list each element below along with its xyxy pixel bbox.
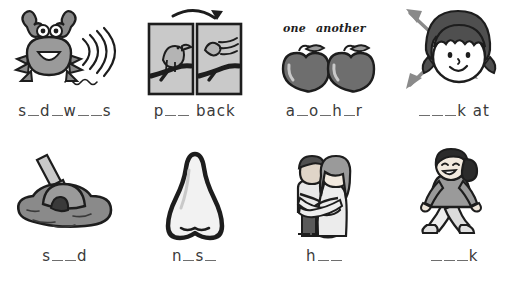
label-letters: d <box>77 247 88 265</box>
blank-line[interactable] <box>78 104 89 116</box>
worksheet-item-label: sd <box>42 249 87 264</box>
label-letters: p <box>154 102 165 120</box>
worksheet-item-label: ns <box>172 249 217 264</box>
worksheet-item-walk[interactable]: k <box>389 145 519 289</box>
blank-line[interactable] <box>52 104 63 116</box>
blank-line[interactable] <box>178 104 189 116</box>
worksheet-item-label: p back <box>154 104 236 119</box>
blank-line[interactable] <box>419 104 430 116</box>
label-letters: n <box>172 247 183 265</box>
label-letters: k <box>469 247 479 265</box>
worksheet-row-bottom: sd ns <box>0 145 519 289</box>
blank-line[interactable] <box>91 104 102 116</box>
label-letters: h <box>306 247 317 265</box>
worksheet-item-sand[interactable]: sd <box>0 145 130 289</box>
worksheet-item-label: k <box>430 249 479 264</box>
label-letters: k at <box>457 102 490 120</box>
label-letters: s <box>18 102 27 120</box>
label-letters: d <box>40 102 51 120</box>
worksheet-item-apples[interactable]: oneanother <box>260 0 390 144</box>
couple-hugging-icon <box>260 145 388 247</box>
blank-line[interactable] <box>444 249 455 261</box>
blank-line[interactable] <box>183 249 194 261</box>
nose-icon <box>131 145 259 247</box>
label-letters: s <box>42 247 51 265</box>
worksheet-item-crab[interactable]: sdws <box>0 0 130 144</box>
blank-line[interactable] <box>432 104 443 116</box>
blank-line[interactable] <box>431 249 442 261</box>
blank-line[interactable] <box>52 249 63 261</box>
apples-caption: oneanother <box>260 22 388 35</box>
worksheet-item-label: sdws <box>18 104 111 119</box>
worksheet-page: sdws <box>0 0 519 289</box>
blank-line[interactable] <box>445 104 456 116</box>
two-apples-icon: oneanother <box>260 0 388 102</box>
label-letters: s <box>195 247 204 265</box>
girl-face-with-double-arrow-icon <box>390 0 518 102</box>
blank-line[interactable] <box>165 104 176 116</box>
worksheet-item-nose[interactable]: ns <box>130 145 260 289</box>
blank-line[interactable] <box>28 104 39 116</box>
caption-word-one: one <box>283 22 306 35</box>
worksheet-item-label: k at <box>418 104 490 119</box>
blank-line[interactable] <box>457 249 468 261</box>
label-letters: s <box>103 102 112 120</box>
girl-walking-icon <box>390 145 518 247</box>
sand-pile-with-shovel-icon <box>1 145 129 247</box>
blank-line[interactable] <box>318 249 329 261</box>
worksheet-item-label: h <box>306 249 343 264</box>
worksheet-item-bird-back[interactable]: p back <box>130 0 260 144</box>
worksheet-row-top: sdws <box>0 0 519 144</box>
label-letters: back <box>190 102 235 120</box>
blank-line[interactable] <box>65 249 76 261</box>
crab-with-motion-lines-icon <box>1 0 129 102</box>
worksheet-item-look-at[interactable]: k at <box>389 0 519 144</box>
caption-word-two: another <box>316 22 366 35</box>
blank-line[interactable] <box>331 249 342 261</box>
blank-line[interactable] <box>205 249 216 261</box>
worksheet-item-hug[interactable]: h <box>260 145 390 289</box>
bird-flying-back-two-panels-icon <box>131 0 259 102</box>
label-letters: w <box>64 102 77 120</box>
